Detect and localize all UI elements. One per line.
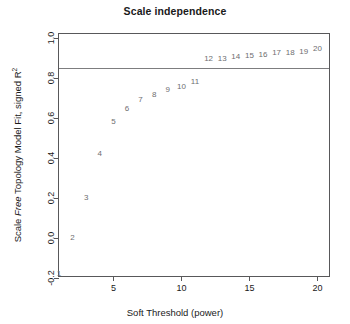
threshold-line [59,68,329,69]
data-point-label: 14 [231,53,240,61]
data-point-label: 17 [272,49,281,57]
data-point-label: 2 [70,234,74,242]
data-point-label: 9 [166,86,170,94]
x-axis-tick [113,276,114,281]
data-point-label: 13 [218,55,227,63]
y-axis-title: Scale Free Topology Model Fit, signed R2 [9,33,25,277]
data-point-label: 3 [84,194,88,202]
x-axis-tick [317,276,318,281]
scale-independence-chart: Scale independence Scale Free Topology M… [0,0,350,324]
x-axis-tick-label: 15 [244,283,254,293]
y-axis-tick-label: 0.8 [46,78,56,91]
x-axis-tick [181,276,182,281]
data-point-label: 19 [299,48,308,56]
x-axis-tick [249,276,250,281]
y-axis-title-pre: Scale [12,216,23,242]
data-point-label: 4 [98,150,102,158]
x-axis-tick-label: 20 [312,283,322,293]
y-axis-tick-label: 0.6 [46,118,56,131]
y-axis-title-superscript: 2 [11,68,18,72]
data-point-label: 7 [138,96,142,104]
data-point-label: 20 [313,45,322,53]
x-axis-tick-label: 5 [111,283,116,293]
y-axis-tick-label: 1.0 [46,38,56,51]
y-axis-tick-label: -0.2 [46,278,56,294]
y-axis-tick-label: 0.2 [46,198,56,211]
x-axis-title: Soft Threshold (power) [0,307,350,318]
y-axis-title-post: Topology Model Fit, signed R [12,71,23,196]
data-point-label: 16 [259,51,268,59]
plot-area: -0.20.00.20.40.60.81.0510152012345678910… [58,33,330,277]
data-point-label: 11 [191,78,199,86]
data-point-label: 10 [177,83,186,91]
data-point-label: 1 [57,270,61,278]
data-point-label: 8 [152,91,156,99]
data-point-label: 6 [125,105,129,113]
data-point-label: 12 [204,55,213,63]
data-point-label: 18 [286,49,295,57]
y-axis-title-italic: Free [12,196,23,216]
y-axis-tick-label: 0.4 [46,158,56,171]
y-axis-tick-label: 0.0 [46,238,56,251]
data-point-label: 5 [111,118,115,126]
data-point-label: 15 [245,52,254,60]
chart-title: Scale independence [0,5,350,17]
x-axis-tick-label: 10 [176,283,186,293]
